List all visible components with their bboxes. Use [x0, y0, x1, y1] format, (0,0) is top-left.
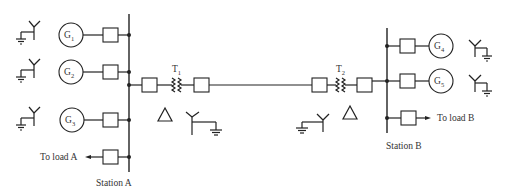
station-a-label: Station A — [96, 178, 132, 188]
delta-winding-icon — [158, 108, 172, 121]
transformer-t2-icon — [336, 78, 345, 92]
bus-junction-dot — [127, 118, 131, 122]
circuit-breaker-icon — [400, 74, 415, 88]
one-line-diagram: G1 G2 — [0, 0, 506, 196]
wye-grounded-icon — [186, 112, 222, 135]
delta-winding-icon — [343, 106, 357, 119]
circuit-breaker-icon — [312, 78, 327, 92]
circuit-breaker-icon — [357, 78, 372, 92]
circuit-breaker-icon — [401, 111, 416, 125]
transmission-path: T1 T2 — [127, 64, 387, 92]
generator-g3-branch: G3 — [16, 107, 131, 132]
circuit-breaker-icon — [142, 78, 157, 92]
generator-g1-branch: G1 — [16, 21, 131, 47]
arrow-left-icon — [85, 155, 91, 159]
bus-junction-dot — [127, 33, 131, 37]
wye-grounded-icon — [469, 75, 492, 96]
wye-grounded-icon — [16, 21, 40, 44]
generator-g2-branch: G2 — [16, 59, 131, 84]
load-a-label: To load A — [40, 152, 77, 162]
circuit-breaker-icon — [103, 150, 118, 164]
wye-grounded-icon — [296, 114, 329, 133]
wye-grounded-icon — [16, 107, 40, 130]
circuit-breaker-icon — [194, 78, 209, 92]
load-a-branch: To load A — [40, 150, 131, 164]
transformer-t1-icon — [172, 78, 181, 92]
arrow-right-icon — [425, 116, 431, 120]
wye-grounded-icon — [16, 59, 40, 82]
circuit-breaker-icon — [103, 65, 118, 79]
load-b-label: To load B — [437, 113, 474, 123]
circuit-breaker-icon — [400, 39, 415, 53]
circuit-breaker-icon — [103, 28, 118, 42]
generator-g5-branch: G5 — [385, 69, 492, 96]
bus-junction-dot — [127, 70, 131, 74]
load-b-branch: To load B — [385, 111, 474, 125]
transformer-t1-label: T1 — [172, 64, 181, 76]
transformer-t2-label: T2 — [336, 64, 345, 76]
circuit-breaker-icon — [103, 113, 118, 127]
wye-grounded-icon — [469, 40, 492, 61]
station-b-label: Station B — [386, 141, 422, 151]
generator-g4-branch: G4 — [385, 34, 492, 61]
